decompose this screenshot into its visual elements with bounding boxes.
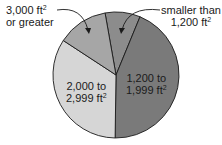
label-smaller-than-1200: smaller than 1,200 ft2 [161, 4, 221, 28]
label-1200-to-1999: 1,200 to 1,999 ft2 [126, 72, 167, 96]
label-2000-to-2999: 2,000 to 2,999 ft2 [66, 80, 107, 104]
label-3000-or-greater: 3,000 ft2 or greater [6, 4, 54, 28]
